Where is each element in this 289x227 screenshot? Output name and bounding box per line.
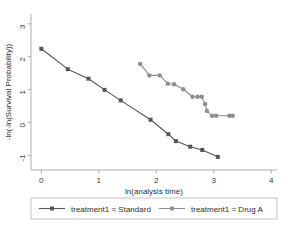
series-line (41, 49, 217, 157)
data-point-marker (119, 98, 123, 102)
data-point-marker (174, 139, 178, 143)
legend-swatch-marker (170, 206, 174, 210)
data-point-marker (200, 148, 204, 152)
data-point-marker (210, 114, 214, 118)
data-point-marker (166, 81, 170, 85)
data-point-marker (181, 87, 185, 91)
data-point-marker (190, 95, 194, 99)
y-axis-title: -ln(-ln(Survival Probability)) (4, 43, 13, 140)
legend-swatch-marker (50, 207, 54, 211)
chart-canvas: 3210-101234ln(analysis time)-ln(-ln(Surv… (0, 0, 289, 227)
x-axis-title: ln(analysis time) (125, 187, 183, 196)
series-layer (39, 47, 235, 159)
series-drug-a (138, 62, 235, 118)
x-tick-label: 4 (269, 176, 274, 185)
data-point-marker (195, 95, 199, 99)
data-point-marker (149, 118, 153, 122)
legend-label: treatment1 = Drug A (191, 205, 263, 214)
data-point-marker (200, 95, 204, 99)
y-tick-label: 1 (18, 90, 27, 95)
data-point-marker (86, 77, 90, 81)
data-point-marker (231, 114, 235, 118)
data-point-marker (172, 82, 176, 86)
data-point-marker (203, 102, 207, 106)
data-point-marker (216, 155, 220, 159)
survival-loglog-chart: 3210-101234ln(analysis time)-ln(-ln(Surv… (0, 0, 289, 227)
x-tick-label: 2 (154, 176, 159, 185)
data-point-marker (103, 88, 107, 92)
data-point-marker (205, 109, 209, 113)
series-line (140, 64, 233, 116)
x-tick-label: 3 (212, 176, 217, 185)
data-point-marker (66, 67, 70, 71)
x-tick-label: 1 (97, 176, 102, 185)
data-point-marker (188, 145, 192, 149)
data-point-marker (158, 73, 162, 77)
data-point-marker (214, 114, 218, 118)
data-point-marker (138, 62, 142, 66)
y-tick-label: 3 (18, 24, 27, 29)
series-standard (39, 47, 219, 159)
data-point-marker (147, 73, 151, 77)
axes-layer (28, 14, 278, 174)
legend-label: treatment1 = Standard (71, 205, 151, 214)
data-point-marker (166, 132, 170, 136)
x-tick-label: 0 (39, 176, 44, 185)
data-point-marker (39, 47, 43, 51)
y-tick-label: 2 (18, 57, 27, 62)
chart-legend: treatment1 = Standardtreatment1 = Drug A (31, 198, 277, 219)
y-tick-label: 0 (18, 122, 27, 127)
y-tick-label: -1 (18, 154, 27, 162)
